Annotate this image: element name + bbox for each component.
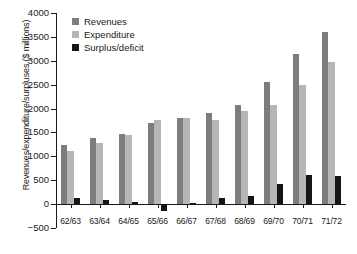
bar-rev bbox=[61, 145, 67, 204]
legend-label-surplus-deficit: Surplus/deficit bbox=[84, 43, 144, 53]
y-axis-line bbox=[56, 13, 57, 228]
x-tick bbox=[245, 204, 246, 208]
legend-swatch-expenditure bbox=[72, 31, 79, 38]
y-tick-label: 2500 bbox=[28, 80, 49, 90]
y-tick-label: 1500 bbox=[28, 128, 49, 138]
y-tick bbox=[51, 180, 56, 181]
bar-sur bbox=[161, 204, 167, 211]
x-tick bbox=[187, 204, 188, 208]
y-tick-label: 0 bbox=[44, 199, 49, 209]
y-tick bbox=[51, 13, 56, 14]
x-tick bbox=[158, 204, 159, 208]
x-tick-label: 63/64 bbox=[89, 217, 110, 226]
bar-rev bbox=[148, 123, 154, 204]
y-tick-label: −500 bbox=[28, 223, 49, 233]
y-tick-label: 2000 bbox=[28, 104, 49, 114]
x-tick-label: 64/65 bbox=[118, 217, 139, 226]
bar-rev bbox=[119, 134, 125, 204]
x-tick-label: 66/67 bbox=[176, 217, 197, 226]
y-tick-label: 500 bbox=[33, 175, 49, 185]
x-tick-label: 71/72 bbox=[321, 217, 342, 226]
bar-rev bbox=[264, 82, 270, 204]
y-tick bbox=[51, 132, 56, 133]
bar-sur bbox=[335, 176, 341, 204]
y-tick bbox=[51, 85, 56, 86]
bar-rev bbox=[322, 32, 328, 204]
legend-label-expenditure: Expenditure bbox=[84, 30, 135, 40]
x-tick bbox=[303, 204, 304, 208]
bar-rev bbox=[206, 113, 212, 204]
bar-exp bbox=[299, 85, 305, 204]
y-tick bbox=[51, 61, 56, 62]
x-tick-label: 67/68 bbox=[205, 217, 226, 226]
bar-sur bbox=[306, 175, 312, 204]
legend-label-revenues: Revenues bbox=[84, 17, 127, 27]
bar-rev bbox=[235, 105, 241, 204]
x-tick-label: 69/70 bbox=[263, 217, 284, 226]
bar-sur bbox=[277, 184, 283, 204]
x-tick bbox=[274, 204, 275, 208]
bar-sur bbox=[103, 200, 109, 205]
x-tick bbox=[332, 204, 333, 208]
y-tick-label: 1000 bbox=[28, 152, 49, 162]
y-tick bbox=[51, 204, 56, 205]
x-tick-label: 68/69 bbox=[234, 217, 255, 226]
bar-rev bbox=[90, 138, 96, 204]
bar-exp bbox=[183, 118, 189, 204]
bar-rev bbox=[177, 118, 183, 204]
x-tick-label: 62/63 bbox=[60, 217, 81, 226]
bar-exp bbox=[328, 62, 334, 204]
y-tick bbox=[51, 109, 56, 110]
x-tick bbox=[71, 204, 72, 208]
bar-exp bbox=[212, 120, 218, 204]
x-tick bbox=[129, 204, 130, 208]
legend-item-revenues: Revenues bbox=[72, 15, 144, 28]
bar-exp bbox=[241, 111, 247, 204]
legend-item-expenditure: Expenditure bbox=[72, 28, 144, 41]
legend-swatch-surplus-deficit bbox=[72, 44, 79, 51]
x-tick-label: 65/66 bbox=[147, 217, 168, 226]
y-tick-label: 3000 bbox=[28, 56, 49, 66]
bar-exp bbox=[96, 143, 102, 204]
x-tick bbox=[216, 204, 217, 208]
chart-legend: Revenues Expenditure Surplus/deficit bbox=[72, 15, 144, 54]
bar-sur bbox=[74, 198, 80, 204]
bar-sur bbox=[219, 198, 225, 204]
x-tick bbox=[100, 204, 101, 208]
legend-swatch-revenues bbox=[72, 18, 79, 25]
bar-chart: Revenues/expenditure/surpluses ($ millio… bbox=[0, 0, 357, 254]
bar-sur bbox=[190, 203, 196, 204]
y-tick bbox=[51, 37, 56, 38]
legend-item-surplus-deficit: Surplus/deficit bbox=[72, 41, 144, 54]
x-tick-label: 70/71 bbox=[292, 217, 313, 226]
bar-exp bbox=[154, 120, 160, 204]
y-tick-label: 3500 bbox=[28, 32, 49, 42]
y-tick bbox=[51, 228, 56, 229]
bar-sur bbox=[132, 202, 138, 204]
bar-exp bbox=[67, 151, 73, 205]
y-tick bbox=[51, 156, 56, 157]
bar-rev bbox=[293, 54, 299, 204]
y-tick-label: 4000 bbox=[28, 8, 49, 18]
bar-exp bbox=[125, 135, 131, 204]
bar-exp bbox=[270, 105, 276, 204]
bar-sur bbox=[248, 196, 254, 205]
